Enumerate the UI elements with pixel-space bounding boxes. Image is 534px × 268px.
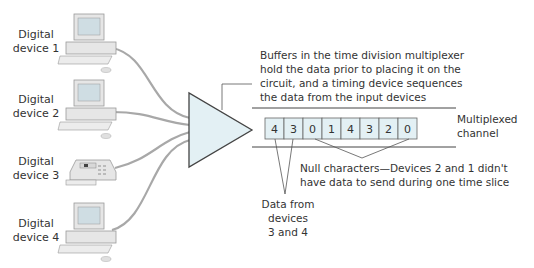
note-line: circuit, and a timing device sequences [260,76,464,90]
channel-cell-value: 3 [366,123,373,136]
channel-label-line: channel [457,126,518,140]
note-line: hold the data prior to placing it on the [260,62,464,76]
null-pointer-lines [315,139,409,158]
data-from-devices-note: Data from devices 3 and 4 [254,197,322,239]
device-1-label: Digital device 1 [6,28,66,56]
device-label-line: Digital [6,28,66,42]
channel-cells: 43014320 [265,118,417,139]
note-line: Buffers in the time division multiplexer [260,48,464,62]
computer-icon [58,80,116,139]
data-note-line: devices [254,211,322,225]
device-label-line: Digital [6,217,66,231]
device-label-line: Digital [6,155,66,169]
multiplexer-note: Buffers in the time division multiplexer… [260,48,464,104]
device-label-line: Digital [6,93,66,107]
note-line: the data from the input devices [260,90,464,104]
device-3-label: Digital device 3 [6,155,66,183]
data-note-line: 3 and 4 [254,225,322,239]
computer-icon [58,14,116,73]
null-note-line: Null characters—Devices 2 and 1 didn't [300,161,509,175]
channel-cell-value: 4 [347,123,354,136]
device-4-label: Digital device 4 [6,217,66,245]
null-note-line: have data to send during one time slice [300,175,509,189]
device-label-line: device 1 [6,42,66,56]
device-label-line: device 2 [6,107,66,121]
channel-cell-value: 0 [404,123,411,136]
channel-cell-value: 2 [385,123,392,136]
channel-label: Multiplexed channel [457,112,518,140]
channel-label-line: Multiplexed [457,112,518,126]
telephone-icon [66,160,116,185]
cables [112,48,190,230]
channel-cell-value: 0 [309,123,316,136]
null-characters-note: Null characters—Devices 2 and 1 didn't h… [300,161,509,189]
channel-cell-value: 3 [290,123,297,136]
device-label-line: device 4 [6,231,66,245]
device-label-line: device 3 [6,169,66,183]
multiplexer-triangle [189,93,252,167]
note-callout-line [222,84,252,110]
channel-cell-value: 4 [271,123,278,136]
data-note-line: Data from [254,197,322,211]
channel-cell-value: 1 [328,123,335,136]
computer-icon [58,203,116,262]
device-2-label: Digital device 2 [6,93,66,121]
